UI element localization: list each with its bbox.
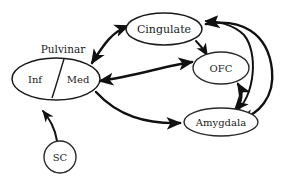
ofc-label: OFC (210, 63, 233, 74)
node-pulvinar[interactable]: Inf Med (12, 58, 100, 100)
edge-pulvinar-med-ofc (100, 62, 192, 81)
edge-pulvinar-med-amygdala (96, 92, 180, 123)
node-cingulate[interactable]: Cingulate (126, 13, 202, 45)
diagram-canvas: Inf Med Pulvinar Cingulate OFC Amygdala … (0, 0, 284, 180)
pulvinar-group-label: Pulvinar (41, 43, 86, 55)
amygdala-label: Amygdala (195, 117, 246, 128)
edge-pulvinar-med-cingulate (92, 26, 128, 63)
pulvinar-med-label: Med (67, 74, 90, 85)
node-sc[interactable]: SC (44, 141, 76, 173)
connectivity-diagram: Inf Med Pulvinar Cingulate OFC Amygdala … (0, 0, 284, 180)
node-amygdala[interactable]: Amygdala (184, 108, 258, 136)
edge-cingulate-ofc (196, 41, 207, 55)
pulvinar-inf-label: Inf (28, 74, 43, 85)
node-ofc[interactable]: OFC (193, 52, 249, 84)
sc-label: SC (53, 152, 68, 163)
cingulate-label: Cingulate (137, 23, 191, 36)
edge-sc-pulvinar-inf (43, 111, 57, 141)
